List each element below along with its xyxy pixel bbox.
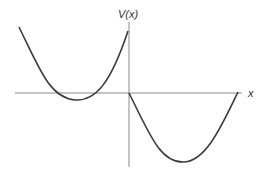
curve-right-well — [129, 92, 238, 162]
curve-left-well — [19, 27, 128, 100]
x-axis-label: x — [248, 88, 254, 99]
plot-canvas — [0, 0, 266, 174]
y-axis-label: V(x) — [118, 9, 138, 20]
potential-energy-diagram: V(x) x — [0, 0, 266, 174]
